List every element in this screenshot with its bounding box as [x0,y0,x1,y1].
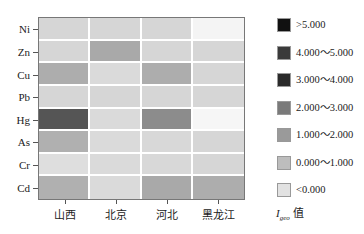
heatmap-cell [193,86,244,109]
y-axis-tick [33,120,38,121]
heatmap-cell [39,109,90,132]
heatmap-cell [90,131,141,154]
y-axis-tick [33,52,38,53]
x-axis-tick [167,200,168,204]
heatmap-cell [142,154,193,177]
heatmap-cell [193,176,244,199]
heatmap-cell [39,41,90,64]
x-axis-label: 山西 [39,206,91,222]
heatmap-cell [39,176,90,199]
y-axis-tick [33,97,38,98]
heatmap-cell [193,131,244,154]
heatmap-cell [142,131,193,154]
heatmap-cell [142,18,193,41]
y-axis-label: Ni [0,23,30,35]
legend-swatch [277,156,291,170]
heatmap-cell [90,86,141,109]
legend-swatch [277,101,291,115]
y-axis-label: Zn [0,46,30,58]
plot-area [38,17,245,200]
heatmap-cell [90,63,141,86]
heatmap-cell [193,109,244,132]
x-axis-label: 河北 [141,206,193,222]
heatmap-cell [193,63,244,86]
heatmap-cell [90,176,141,199]
y-axis-label: Cr [0,159,30,171]
y-axis-tick [33,188,38,189]
legend-label: <0.000 [296,183,326,197]
heatmap-cell [90,41,141,64]
y-axis-label: Pb [0,91,30,103]
x-axis-label: 黑龙江 [192,206,244,222]
legend-label: 0.000～1.000 [296,156,353,170]
heatmap-cell [90,18,141,41]
legend-swatch [277,128,291,142]
heatmap-cell [39,63,90,86]
y-axis-label: Cu [0,69,30,81]
heatmap-cell [90,109,141,132]
legend-label: 2.000～3.000 [296,101,353,115]
heatmap-cell [39,154,90,177]
y-axis-tick [33,75,38,76]
heatmap-cell [142,176,193,199]
legend-label: 1.000～2.000 [296,128,353,142]
heatmap-cell [142,86,193,109]
legend-label: 4.000～5.000 [296,46,353,60]
heatmap-cell [90,154,141,177]
x-axis-tick [116,200,117,204]
legend-swatch [277,46,291,60]
legend-label: >5.000 [296,18,326,32]
heatmap-cell [39,131,90,154]
heatmap-cell [39,18,90,41]
y-axis-tick [33,142,38,143]
y-axis-label: Cd [0,182,30,194]
heatmap-cell [142,41,193,64]
legend-swatch [277,183,291,197]
y-axis-label: Hg [0,114,30,126]
legend-swatch [277,73,291,87]
legend-swatch [277,18,291,32]
heatmap-cell [193,18,244,41]
y-axis-tick [33,29,38,30]
y-axis-label: As [0,136,30,148]
legend-title: Igeo 值 [276,204,304,222]
x-axis-tick [218,200,219,204]
heatmap-cell [193,41,244,64]
x-axis-tick [65,200,66,204]
heatmap-cell [142,109,193,132]
heatmap-cell [142,63,193,86]
legend-label: 3.000～4.000 [296,73,353,87]
x-axis-label: 北京 [90,206,142,222]
y-axis-tick [33,165,38,166]
heatmap-cell [193,154,244,177]
heatmap-cell [39,86,90,109]
